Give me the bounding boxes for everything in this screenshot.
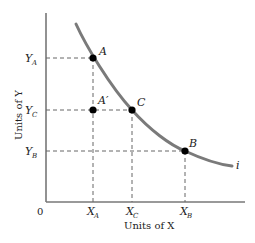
y-tick-b: Y B [25,145,37,160]
point-a [89,54,96,61]
indifference-curve-diagram: A A′ C B i Y A Y C Y B 0 X A X C X B Uni… [0,0,255,243]
x-tick-a: X A [86,205,99,220]
label-b: B [188,137,197,150]
x-tick-b: X B [179,205,192,220]
x-tick-c: X C [125,205,139,220]
svg-text:C: C [133,212,139,220]
svg-text:C: C [32,111,38,119]
y-tick-a: Y A [25,52,37,67]
y-axis-title: Units of Y [13,90,24,140]
label-a-prime: A′ [97,94,109,107]
point-a-prime [89,106,96,113]
svg-text:B: B [31,152,37,160]
point-b [181,147,188,154]
x-axis-title: Units of X [124,220,175,231]
svg-text:A: A [31,59,37,67]
origin-label: 0 [37,206,43,217]
guide-lines [46,58,185,202]
svg-text:B: B [186,212,192,220]
curve-label: i [236,159,240,172]
point-c [128,106,135,113]
label-a: A [98,45,107,58]
label-c: C [137,96,146,109]
y-tick-c: Y C [25,104,38,119]
svg-text:A: A [93,212,99,220]
